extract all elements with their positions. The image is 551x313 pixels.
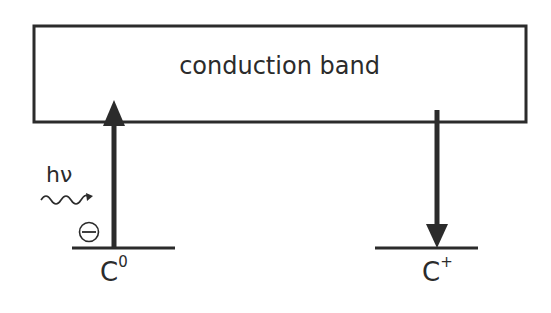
wavy-arrow-icon — [41, 193, 93, 204]
capture-arrow-head — [426, 224, 448, 248]
minus-circle-icon — [80, 223, 99, 242]
excitation-arrow-head — [103, 100, 125, 126]
cplus-base: C — [422, 257, 440, 287]
c0-base: C — [100, 257, 118, 287]
cplus-level-label: C+ — [422, 257, 453, 287]
photon-label: hν — [46, 162, 72, 187]
conduction-band-label: conduction band — [33, 52, 526, 80]
diagram-canvas — [0, 0, 551, 313]
c0-level-label: C0 — [100, 257, 128, 287]
c0-superscript: 0 — [118, 253, 128, 271]
cplus-superscript: + — [440, 253, 453, 271]
